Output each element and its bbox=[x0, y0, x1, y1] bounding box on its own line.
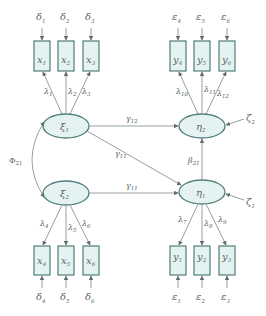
loading-lambda-4: λ4 bbox=[39, 219, 49, 229]
error-epsilon-4: ε4 bbox=[172, 11, 181, 24]
loading-lambda-9: λ9 bbox=[217, 215, 227, 225]
disturbances: ζ2 ζ1 bbox=[226, 112, 255, 209]
error-epsilon-3: ε3 bbox=[221, 291, 230, 304]
loading-lambda-5: λ5 bbox=[67, 223, 77, 233]
error-delta-3: δ3 bbox=[85, 11, 95, 24]
error-epsilon-1: ε1 bbox=[172, 291, 181, 304]
loading-lambda-12: λ12 bbox=[216, 89, 230, 99]
loading-lambda-1: λ1 bbox=[43, 87, 53, 97]
disturbance-zeta-2: ζ2 bbox=[246, 112, 255, 125]
error-epsilon-2: ε2 bbox=[196, 291, 205, 304]
error-delta-4: δ4 bbox=[36, 291, 46, 304]
path-gamma-11: γ11 bbox=[126, 181, 138, 191]
loading-lambda-11: λ11 bbox=[203, 85, 216, 95]
y-indicators-bottom: λ7 λ8 λ9 y1 y2 y3 ε1 ε2 ε3 bbox=[170, 204, 235, 304]
loading-lambda-6: λ6 bbox=[81, 219, 91, 229]
error-epsilon-6: ε6 bbox=[221, 11, 230, 24]
latent-eta2 bbox=[179, 114, 225, 138]
path-beta-21: β21 bbox=[187, 156, 200, 166]
covariance-phi21: Φ21 bbox=[9, 122, 44, 197]
x-indicators-top: δ1 δ2 δ3 x1 x2 x3 λ1 λ2 λ3 bbox=[34, 11, 99, 114]
sem-path-diagram: δ1 δ2 δ3 x1 x2 x3 λ1 λ2 λ3 ε4 ε5 ε6 y4 y… bbox=[0, 0, 266, 316]
y-indicators-top: ε4 ε5 ε6 y4 y5 y6 λ10 λ11 λ12 bbox=[170, 11, 235, 114]
loading-lambda-7: λ7 bbox=[177, 215, 187, 225]
x-indicators-bottom: λ4 λ5 λ6 x4 x5 x6 δ4 δ5 δ6 bbox=[34, 205, 99, 304]
error-epsilon-5: ε5 bbox=[196, 11, 205, 24]
loading-lambda-2: λ2 bbox=[67, 87, 77, 97]
loading-lambda-8: λ8 bbox=[203, 219, 213, 229]
disturbance-zeta-1: ζ1 bbox=[246, 196, 255, 209]
latent-eta1 bbox=[179, 180, 225, 204]
label-phi-21: Φ21 bbox=[9, 156, 23, 166]
error-delta-2: δ2 bbox=[60, 11, 70, 24]
error-delta-1: δ1 bbox=[36, 11, 46, 24]
path-gamma-12: γ12 bbox=[126, 114, 138, 124]
latent-xi2 bbox=[43, 181, 89, 205]
latent-xi1 bbox=[43, 114, 89, 138]
error-delta-5: δ5 bbox=[60, 291, 70, 304]
error-delta-6: δ6 bbox=[85, 291, 95, 304]
loading-lambda-3: λ3 bbox=[81, 87, 91, 97]
